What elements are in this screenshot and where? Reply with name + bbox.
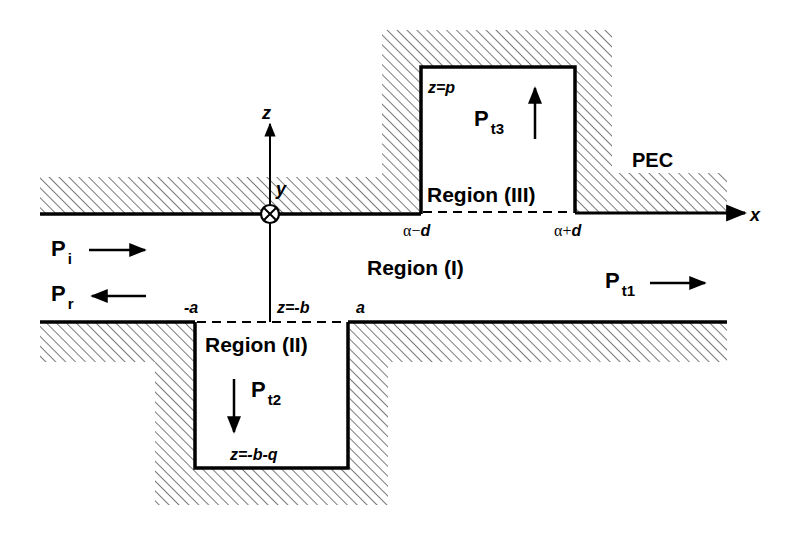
upper-wall (40, 213, 745, 214)
groove-top-label: z=p (428, 80, 455, 96)
a-label: a (356, 300, 365, 316)
lower-pec-hatch (40, 323, 727, 505)
p-r-label: Pr (51, 283, 74, 305)
region-ii-label: Region (II) (205, 334, 308, 355)
p-i-label: Pi (51, 238, 72, 260)
region-iii-label: Region (III) (427, 184, 536, 205)
alpha-minus-d-label: α−d (403, 223, 430, 239)
y-axis-label: y (276, 180, 286, 198)
p-t2-label: Pt2 (251, 379, 281, 401)
upper-pec-hatch (40, 30, 727, 214)
lower-wall-label: z=-b (277, 300, 309, 316)
z-axis-label: z (262, 104, 271, 122)
p-t1-label: Pt1 (605, 270, 635, 292)
x-axis-label: x (750, 206, 760, 224)
alpha-plus-d-label: α+d (554, 223, 581, 239)
minus-a-label: -a (184, 300, 198, 316)
y-axis-into-page-icon (261, 205, 279, 223)
pec-label: PEC (632, 150, 673, 170)
region-i-label: Region (I) (367, 257, 464, 278)
groove-bottom-label: z=-b-q (230, 447, 278, 463)
p-t3-label: Pt3 (474, 108, 504, 130)
